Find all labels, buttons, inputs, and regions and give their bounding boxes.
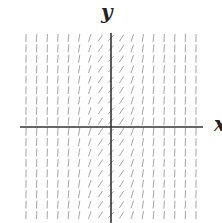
slope-segment xyxy=(131,76,134,84)
slope-segment xyxy=(89,97,92,105)
slope-segment xyxy=(142,117,143,125)
slope-segment xyxy=(79,45,80,53)
slope-segment xyxy=(68,44,69,52)
slope-segment xyxy=(119,35,123,42)
slope-segment xyxy=(58,86,59,94)
slope-segment xyxy=(58,159,59,167)
slope-segment xyxy=(79,65,80,73)
slope-segment xyxy=(79,180,80,188)
slope-segment xyxy=(153,201,154,209)
slope-segment xyxy=(131,34,134,42)
slope-segment xyxy=(98,212,102,219)
slope-segment xyxy=(142,107,143,115)
slope-segment xyxy=(58,169,59,177)
slope-segment xyxy=(119,201,123,208)
slope-segment xyxy=(153,159,154,167)
slope-segment xyxy=(119,118,123,125)
slope-segment xyxy=(164,211,165,219)
slope-segment xyxy=(79,159,80,167)
slope-segment xyxy=(79,211,80,219)
x-axis-label: x xyxy=(214,112,222,136)
slope-segment xyxy=(79,117,80,125)
slope-segment xyxy=(164,97,165,105)
slope-segment xyxy=(68,149,69,157)
slope-segment xyxy=(68,86,69,94)
slope-segment xyxy=(68,76,69,84)
slope-segment xyxy=(142,201,143,209)
slope-segment xyxy=(164,55,165,63)
slope-segment xyxy=(164,138,165,146)
slope-segment xyxy=(89,107,92,115)
slope-segment xyxy=(98,170,102,177)
slope-segment xyxy=(164,65,165,73)
slope-segment xyxy=(131,190,134,198)
slope-segment xyxy=(98,139,102,146)
slope-segment xyxy=(68,97,69,105)
slope-segment xyxy=(142,65,143,73)
slope-segment xyxy=(153,138,154,146)
slope-segment xyxy=(153,180,154,188)
slope-segment xyxy=(119,45,123,52)
slope-segment xyxy=(98,118,102,125)
slope-segment xyxy=(142,190,143,198)
slope-segment xyxy=(142,86,143,94)
slope-segment xyxy=(58,190,59,198)
slope-segment xyxy=(68,180,69,188)
slope-segment xyxy=(164,149,165,157)
slope-segment xyxy=(89,76,92,84)
slope-segment xyxy=(89,118,92,126)
slope-segment xyxy=(68,128,69,136)
slope-segment xyxy=(153,190,154,198)
slope-segment xyxy=(142,211,143,219)
slope-segment xyxy=(119,180,123,187)
slope-segment xyxy=(119,149,123,156)
slope-segment xyxy=(89,149,92,157)
slope-segment xyxy=(142,149,143,157)
slope-segment xyxy=(164,34,165,42)
slope-segment xyxy=(119,191,123,198)
slope-segment xyxy=(164,128,165,136)
slope-segment xyxy=(98,97,102,104)
slope-segment xyxy=(58,128,59,136)
slope-segment xyxy=(164,190,165,198)
slope-segment xyxy=(79,138,80,146)
slope-segment xyxy=(58,55,59,63)
slope-segment xyxy=(58,107,59,115)
slope-segment xyxy=(98,180,102,187)
slope-segment xyxy=(89,180,92,188)
slope-segment xyxy=(153,65,154,73)
slope-segment xyxy=(119,56,123,63)
slope-segment xyxy=(142,128,143,136)
slope-field-diagram xyxy=(0,0,222,223)
slope-segment xyxy=(153,76,154,84)
slope-segment xyxy=(58,180,59,188)
slope-segment xyxy=(142,76,143,84)
slope-segment xyxy=(131,118,134,126)
slope-segment xyxy=(58,34,59,42)
slope-segment xyxy=(68,117,69,125)
slope-segment xyxy=(79,128,80,136)
slope-segment xyxy=(58,117,59,125)
slope-segment xyxy=(119,139,123,146)
slope-segment xyxy=(131,55,134,63)
slope-segment xyxy=(164,117,165,125)
slope-segment xyxy=(98,56,102,63)
slope-segment xyxy=(131,201,134,209)
slope-segment xyxy=(119,66,123,73)
slope-segment xyxy=(89,138,92,146)
slope-segment xyxy=(164,159,165,167)
slope-segment xyxy=(119,76,123,83)
slope-segment xyxy=(98,201,102,208)
slope-segment xyxy=(153,97,154,105)
slope-segment xyxy=(58,201,59,209)
slope-segment xyxy=(68,55,69,63)
slope-segment xyxy=(164,201,165,209)
slope-segment xyxy=(153,128,154,136)
y-axis-label: y xyxy=(101,0,113,24)
slope-segment xyxy=(79,169,80,177)
slope-segment xyxy=(153,55,154,63)
slope-segment xyxy=(164,76,165,84)
slope-segment xyxy=(68,169,69,177)
slope-segment xyxy=(79,76,80,84)
slope-segment xyxy=(98,35,102,42)
